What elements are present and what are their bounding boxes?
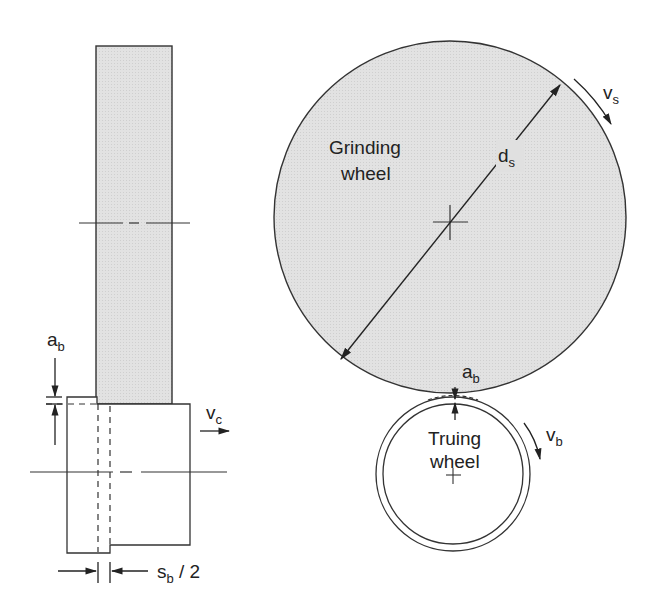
ab-label-side: ab: [47, 329, 65, 354]
front-view: Grinding wheel ds vs ab Truing wheel vb: [274, 41, 626, 551]
grinding-truing-diagram: ab vc sb / 2 Grinding wheel ds: [0, 0, 654, 609]
vs-label: vs: [603, 82, 620, 107]
ab-dimension: [46, 358, 62, 445]
vc-label: vc: [206, 402, 223, 427]
vb-label: vb: [546, 424, 563, 449]
grinding-wheel-side: [96, 46, 172, 404]
truing-roller-side: [67, 397, 190, 553]
side-view: ab vc sb / 2: [30, 46, 229, 586]
sb2-label: sb / 2: [157, 561, 200, 586]
sb2-dimension: [58, 562, 148, 583]
